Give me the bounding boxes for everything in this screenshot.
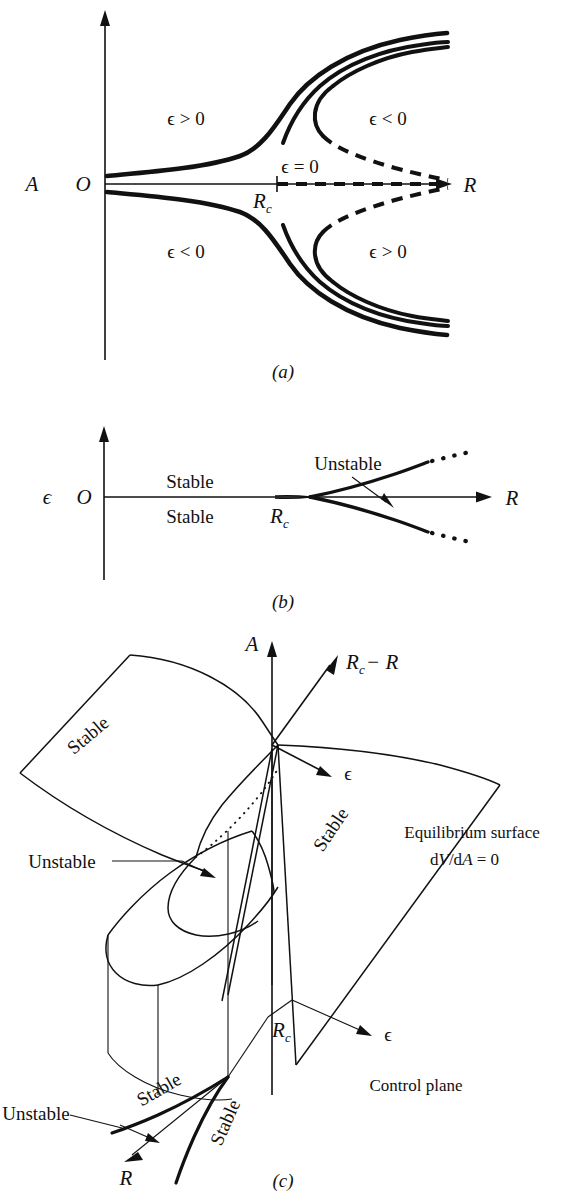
branch-upper-inner-fold (315, 86, 333, 136)
panel-c-stable-right-label: Stable (309, 804, 353, 855)
panel-c-rc-sub: c (359, 662, 365, 677)
panel-a-origin-label: O (75, 172, 90, 196)
panel-c-control-unstable-leader (70, 1115, 122, 1128)
panel-c-control-rc-label: R c (271, 1018, 291, 1045)
branch-upper-middle (283, 42, 448, 143)
panel-b-y-axis (99, 426, 109, 580)
panel-c-control-rc-r: R (271, 1018, 285, 1042)
panel-c-control-unstable-label: Unstable (2, 1103, 70, 1124)
panel-a-region-lower-right: ϵ > 0 (369, 241, 406, 262)
panel-b-critical-label: R c (269, 504, 289, 531)
panel-c-equilibrium-equation: dV/dA = 0 (430, 850, 499, 869)
panel-a: A O R ϵ > 0 ϵ < 0 ϵ < 0 ϵ > 0 ϵ = 0 R c … (0, 0, 567, 390)
panel-c-epsilon-lower-label: ϵ (384, 1024, 392, 1045)
panel-a-region-upper-left: ϵ > 0 (167, 108, 204, 129)
panel-a-caption: (a) (272, 361, 294, 383)
branch-lower-dashed (323, 188, 448, 232)
branch-upper-dashed (323, 136, 448, 180)
panel-b-origin-label: O (76, 485, 91, 509)
panel-c-control-plane-label: Control plane (369, 1076, 462, 1095)
panel-a-axis-a-label: A (24, 172, 39, 196)
panel-c-unstable-label: Unstable (28, 851, 96, 872)
panel-c-unstable-leader (112, 861, 216, 878)
panel-a-critical-sub: c (266, 201, 272, 216)
panel-a-y-axis (100, 10, 110, 360)
panel-c-upper-stable-sheet (20, 655, 278, 871)
branch-lower-inner-fold (315, 232, 333, 282)
panel-c-eq-zero: = 0 (473, 850, 500, 869)
panel-c-control-stable-left: Stable (133, 1068, 185, 1110)
panel-a-center-label: ϵ = 0 (281, 156, 318, 177)
panel-b-x-axis (104, 492, 492, 503)
panel-b-stable-upper: Stable (166, 471, 214, 492)
panel-b-unstable-label: Unstable (314, 453, 382, 474)
panel-a-region-lower-left: ϵ < 0 (167, 241, 204, 262)
figure-container: A O R ϵ > 0 ϵ < 0 ϵ < 0 ϵ > 0 ϵ = 0 R c … (0, 0, 567, 1200)
panel-b-upper-dots (432, 452, 470, 461)
panel-c-epsilon-arrow-upper (272, 745, 332, 777)
panel-c-epsilon-upper-label: ϵ (344, 763, 352, 784)
panel-b-stable-lower: Stable (166, 506, 214, 527)
panel-c-rc-r: R (345, 650, 359, 674)
panel-b-caption: (b) (272, 591, 294, 613)
panel-c-rc-minus-r-label: R c − R (345, 650, 398, 677)
panel-b-critical-r: R (269, 504, 283, 528)
panel-a-region-upper-right: ϵ < 0 (369, 108, 406, 129)
panel-b-lower-branch (310, 497, 428, 532)
panel-b: ϵ O R Stable Stable Unstable R c (b) (0, 400, 567, 620)
panel-b-critical-sub: c (283, 516, 289, 531)
panel-b-axis-epsilon-label: ϵ (43, 485, 53, 509)
panel-b-lower-dots (432, 533, 470, 542)
panel-c-control-r-label: R (119, 1166, 133, 1190)
panel-b-axis-r-label: R (505, 486, 519, 510)
branch-lower-middle (283, 225, 448, 326)
panel-c-right-stable-sheet (278, 745, 500, 1065)
panel-c-control-rc-axis (228, 1000, 372, 1077)
panel-c-rc-minus-r-axis (272, 655, 338, 745)
panel-a-critical-label: R c (252, 189, 272, 216)
panel-a-axis-r-label: R (463, 173, 477, 197)
panel-c-a-label: A (244, 632, 259, 656)
panel-c-control-rc-sub: c (285, 1030, 291, 1045)
panel-a-critical-r: R (252, 189, 266, 213)
panel-c-rc-suffix: − R (366, 650, 398, 674)
panel-c-caption: (c) (272, 1170, 293, 1192)
panel-c: Stable Stable (0, 625, 567, 1200)
svg-text:dV/dA = 0: dV/dA = 0 (430, 850, 499, 869)
panel-c-eq-a: A (461, 850, 473, 869)
panel-c-fold-sheet (106, 745, 278, 1001)
panel-c-eq-slashd: /d (449, 850, 463, 869)
panel-c-equilibrium-surface-label: Equilibrium surface (404, 823, 540, 842)
